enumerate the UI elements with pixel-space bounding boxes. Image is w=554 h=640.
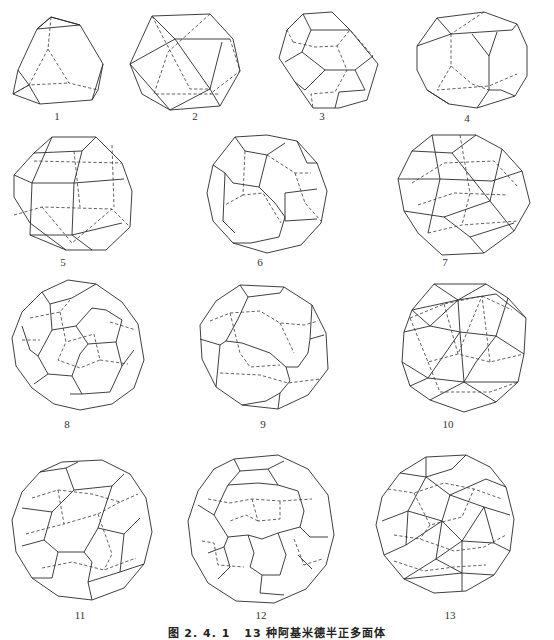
rhombicuboctahedron-drawing bbox=[12, 135, 134, 253]
polyhedron-4 bbox=[415, 8, 527, 106]
polyhedron-2 bbox=[130, 14, 242, 110]
figure-label: 5 bbox=[60, 256, 66, 268]
truncated-octahedron-drawing bbox=[275, 12, 381, 112]
figure-label: 8 bbox=[64, 418, 70, 430]
figure-label: 3 bbox=[319, 110, 325, 122]
figure-label: 6 bbox=[257, 256, 263, 268]
polyhedron-7 bbox=[398, 133, 530, 255]
figure-caption-number: 图 2. 4. 1 bbox=[168, 627, 231, 640]
figure-label: 10 bbox=[443, 418, 454, 430]
snub-cube-drawing bbox=[400, 282, 526, 412]
figure-label: 12 bbox=[256, 609, 267, 621]
polyhedron-12 bbox=[188, 455, 334, 603]
polyhedron-9 bbox=[200, 283, 330, 409]
polyhedron-5 bbox=[12, 135, 134, 253]
polyhedron-8 bbox=[10, 280, 144, 412]
polyhedron-10 bbox=[400, 282, 526, 412]
truncated-icosahedron-drawing bbox=[10, 280, 144, 412]
figure-caption: 图 2. 4. 113 种阿基米德半正多面体 bbox=[0, 624, 554, 640]
rhombicosidodecahedron-drawing bbox=[12, 458, 152, 600]
polyhedron-3 bbox=[275, 12, 381, 112]
polyhedron-1 bbox=[10, 14, 105, 106]
figure-label: 2 bbox=[192, 110, 198, 122]
truncated-dodecahedron-drawing bbox=[200, 283, 330, 409]
polyhedron-6 bbox=[205, 133, 327, 253]
truncated-tetrahedron-drawing bbox=[10, 14, 105, 106]
figure-label: 7 bbox=[442, 256, 448, 268]
figure-label: 4 bbox=[464, 112, 470, 124]
figure-label: 1 bbox=[54, 110, 60, 122]
figure-caption-text: 13 种阿基米德半正多面体 bbox=[244, 627, 386, 640]
truncated-cuboctahedron-drawing bbox=[205, 133, 327, 253]
icosidodecahedron-drawing bbox=[398, 133, 530, 255]
snub-dodecahedron-drawing bbox=[374, 455, 514, 593]
truncated-cube-drawing bbox=[415, 8, 527, 106]
polyhedron-11 bbox=[12, 458, 152, 600]
truncated-icosidodecahedron-drawing bbox=[188, 455, 334, 603]
figure-label: 13 bbox=[445, 609, 456, 621]
figure-label: 9 bbox=[260, 418, 266, 430]
polyhedron-13 bbox=[374, 455, 514, 593]
figure-label: 11 bbox=[75, 609, 86, 621]
cuboctahedron-drawing bbox=[130, 14, 242, 110]
